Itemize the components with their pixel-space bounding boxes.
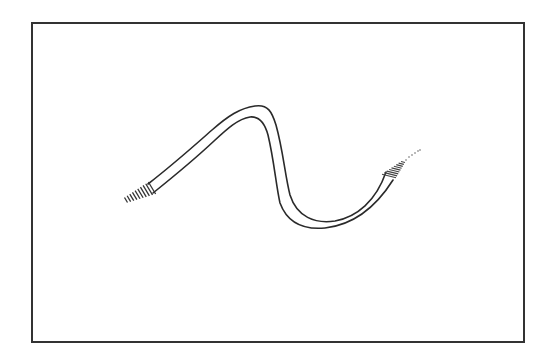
hatch-line <box>127 196 130 202</box>
tip-dot <box>417 150 418 151</box>
hatch-line <box>401 162 405 163</box>
tip-dot <box>411 154 412 155</box>
tube-upper-wall <box>148 106 386 222</box>
tube-body <box>148 106 393 229</box>
hatch-line <box>125 198 128 203</box>
hatch-line <box>399 163 404 164</box>
tube-diagram <box>0 0 553 363</box>
tip-dot <box>419 149 420 150</box>
tip-dot <box>408 156 409 157</box>
tip-dot <box>405 159 406 160</box>
hatch-line <box>148 182 155 194</box>
tip-dot <box>414 152 415 153</box>
hatch-line <box>394 166 402 168</box>
right-end-fitting <box>382 149 421 177</box>
hatch-line <box>130 194 134 201</box>
hatch-line <box>396 165 403 167</box>
hatch-line <box>146 184 153 195</box>
left-end-fitting <box>125 182 156 203</box>
